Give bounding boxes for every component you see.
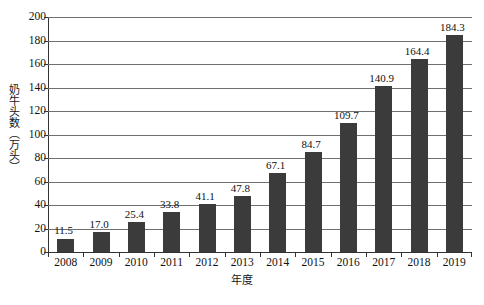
y-tick-label: 0 bbox=[20, 246, 46, 258]
y-tick-label: 100 bbox=[20, 129, 46, 141]
x-tick-label: 2018 bbox=[399, 256, 439, 269]
gridline bbox=[48, 111, 472, 112]
y-tick-mark bbox=[44, 158, 48, 159]
y-tick-mark bbox=[44, 182, 48, 183]
y-tick-mark bbox=[44, 41, 48, 42]
bar[interactable] bbox=[234, 196, 251, 252]
x-tick-label: 2008 bbox=[46, 256, 86, 269]
x-tick-label: 2012 bbox=[187, 256, 227, 269]
x-tick-label: 2010 bbox=[116, 256, 156, 269]
bar[interactable] bbox=[199, 204, 216, 252]
y-tick-label: 80 bbox=[20, 152, 46, 164]
y-tick-label: 180 bbox=[20, 35, 46, 47]
x-tick-label: 2009 bbox=[81, 256, 121, 269]
bar-value-label: 164.4 bbox=[397, 46, 437, 57]
bar[interactable] bbox=[93, 232, 110, 252]
bar-value-label: 140.9 bbox=[362, 73, 402, 84]
y-tick-mark bbox=[44, 17, 48, 18]
bar-value-label: 41.1 bbox=[185, 191, 225, 202]
bar[interactable] bbox=[57, 239, 74, 253]
x-tick-label: 2011 bbox=[152, 256, 192, 269]
y-tick-label: 160 bbox=[20, 58, 46, 70]
y-tick-mark bbox=[44, 64, 48, 65]
bar-value-label: 84.7 bbox=[291, 139, 331, 150]
bar-value-label: 33.8 bbox=[150, 199, 190, 210]
x-tick-label: 2019 bbox=[434, 256, 474, 269]
x-tick-label: 2016 bbox=[328, 256, 368, 269]
bar-value-label: 47.8 bbox=[220, 183, 260, 194]
y-tick-mark bbox=[44, 88, 48, 89]
y-tick-label: 120 bbox=[20, 105, 46, 117]
y-tick-label: 200 bbox=[20, 11, 46, 23]
gridline bbox=[48, 158, 472, 159]
bar[interactable] bbox=[128, 222, 145, 252]
bar[interactable] bbox=[305, 152, 322, 252]
y-axis-tick-labels: 020406080100120140160180200 bbox=[18, 0, 46, 305]
bar[interactable] bbox=[163, 212, 180, 252]
bar[interactable] bbox=[375, 86, 392, 252]
x-axis-tick-labels: 2008200920102011201220132014201520162017… bbox=[48, 256, 472, 272]
bar-value-label: 109.7 bbox=[326, 110, 366, 121]
y-tick-mark bbox=[44, 135, 48, 136]
gridline bbox=[48, 88, 472, 89]
gridline bbox=[48, 205, 472, 206]
x-tick-label: 2013 bbox=[222, 256, 262, 269]
x-tick-label: 2017 bbox=[364, 256, 404, 269]
y-tick-label: 40 bbox=[20, 199, 46, 211]
bar[interactable] bbox=[269, 173, 286, 252]
bar-value-label: 67.1 bbox=[256, 160, 296, 171]
bar[interactable] bbox=[411, 59, 428, 252]
plot-area: 11.517.025.433.841.147.867.184.7109.7140… bbox=[48, 17, 472, 253]
gridline bbox=[48, 64, 472, 65]
bar[interactable] bbox=[446, 35, 463, 252]
y-tick-label: 20 bbox=[20, 223, 46, 235]
y-tick-mark bbox=[44, 205, 48, 206]
x-tick-label: 2014 bbox=[258, 256, 298, 269]
bar-value-label: 17.0 bbox=[79, 219, 119, 230]
bar-value-label: 25.4 bbox=[114, 209, 154, 220]
bar[interactable] bbox=[340, 123, 357, 252]
y-tick-mark bbox=[44, 111, 48, 112]
gridline bbox=[48, 135, 472, 136]
y-tick-label: 60 bbox=[20, 176, 46, 188]
x-tick-label: 2015 bbox=[293, 256, 333, 269]
bar-chart: 奶牛头数（万头） 020406080100120140160180200 11.… bbox=[0, 0, 484, 305]
y-tick-label: 140 bbox=[20, 82, 46, 94]
bar-value-label: 11.5 bbox=[44, 225, 84, 236]
x-axis-title: 年度 bbox=[0, 274, 484, 287]
bar-value-label: 184.3 bbox=[432, 22, 472, 33]
gridline bbox=[48, 17, 472, 18]
gridline bbox=[48, 41, 472, 42]
